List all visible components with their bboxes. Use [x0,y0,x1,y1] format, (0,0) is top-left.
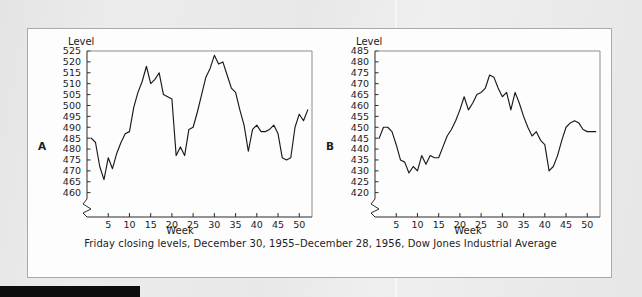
ytick-label: 450 [351,122,369,133]
xtick-label: 35 [230,219,242,230]
ytick-label: 470 [351,78,369,89]
chart-a-xlabel: Week [166,225,194,236]
ytick-label: 455 [351,111,369,122]
chart-panels: Level A 46046547047548048549049550050551… [28,29,613,241]
xtick-label: 10 [123,219,135,230]
ytick-label: 480 [351,56,369,67]
ytick-label: 435 [351,154,369,165]
xtick-label: 40 [251,219,263,230]
chart-b-panel-letter: B [326,140,334,152]
figure-caption: Friday closing levels, December 30, 1955… [28,238,613,249]
ytick-label: 515 [63,67,81,78]
ytick-label: 460 [351,100,369,111]
ytick-label: 485 [63,133,81,144]
plot-frame [375,51,600,217]
xtick-label: 5 [393,219,399,230]
chart-panel-a: Level A 46046547047548048549049550050551… [30,29,320,245]
ytick-label: 525 [63,45,81,56]
ytick-label: 420 [351,187,369,198]
page-bottom-bar [0,286,140,297]
ytick-label: 465 [351,89,369,100]
xtick-label: 40 [539,219,551,230]
ytick-label: 480 [63,143,81,154]
figure-card: Level A 46046547047548048549049550050551… [27,28,612,278]
ytick-label: 460 [63,187,81,198]
ytick-label: 445 [351,133,369,144]
chart-a-panel-letter: A [38,140,47,152]
ytick-label: 495 [63,111,81,122]
xtick-label: 50 [581,219,593,230]
xtick-label: 10 [411,219,423,230]
ytick-label: 500 [63,100,81,111]
chart-a-xtick-labels: 5101520253035404550 [105,213,305,230]
xtick-label: 45 [560,219,572,230]
xtick-label: 30 [496,219,508,230]
ytick-label: 425 [351,176,369,187]
xtick-label: 35 [518,219,530,230]
xtick-label: 45 [272,219,284,230]
ytick-label: 505 [63,89,81,100]
ytick-label: 430 [351,165,369,176]
xtick-label: 50 [293,219,305,230]
chart-b-ytick-labels: 4204254304354404454504554604654704754804… [351,45,379,198]
xtick-label: 15 [145,219,157,230]
ytick-label: 465 [63,176,81,187]
ytick-label: 470 [63,165,81,176]
ytick-label: 520 [63,56,81,67]
axis-break-mark [371,199,379,217]
chart-b-svg: Level B 42042543043544044545045546046547… [318,29,608,241]
chart-a-svg: Level A 46046547047548048549049550050551… [30,29,320,241]
axis-break-mark [83,199,91,217]
chart-b-xlabel: Week [454,225,482,236]
xtick-label: 5 [105,219,111,230]
chart-b-axes [371,51,600,217]
xtick-label: 30 [208,219,220,230]
chart-b-dataline [379,75,596,173]
chart-panel-b: Level B 42042543043544044545045546046547… [318,29,608,245]
ytick-label: 490 [63,122,81,133]
ytick-label: 475 [351,67,369,78]
ytick-label: 510 [63,78,81,89]
chart-a-dataline [91,55,308,179]
ytick-label: 475 [63,154,81,165]
ytick-label: 485 [351,45,369,56]
xtick-label: 15 [433,219,445,230]
chart-a-ytick-labels: 4604654704754804854904955005055105155205… [63,45,91,198]
chart-b-xtick-labels: 5101520253035404550 [393,213,593,230]
ytick-label: 440 [351,143,369,154]
